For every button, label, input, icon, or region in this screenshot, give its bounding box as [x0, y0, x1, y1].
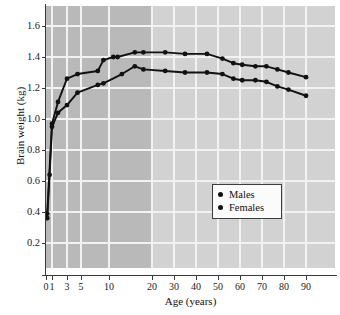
- data-point-marker: [240, 78, 245, 83]
- x-axis-line: [42, 275, 337, 276]
- data-point-marker: [111, 55, 116, 60]
- y-axis-tick-label: 0.4: [16, 207, 40, 217]
- data-point-marker: [56, 110, 61, 115]
- data-point-marker: [65, 76, 70, 81]
- x-axis-tick-label: 1: [50, 281, 55, 292]
- y-axis-tick-label: 1.6: [16, 21, 40, 31]
- chart-screenshot: 0.20.40.60.81.01.21.41.6 013510203040506…: [0, 0, 340, 315]
- legend: Males Females: [212, 184, 282, 219]
- data-point-marker: [253, 64, 258, 69]
- data-point-marker: [132, 50, 137, 55]
- data-point-marker: [253, 78, 258, 83]
- x-axis-tick: [218, 276, 219, 280]
- filled-circle-icon: [218, 192, 223, 197]
- y-axis-tick: [42, 88, 46, 89]
- data-point-marker: [101, 81, 106, 86]
- x-axis-tick-label: 90: [301, 281, 311, 292]
- legend-item-males: Males: [218, 188, 276, 201]
- legend-item-females: Females: [218, 201, 276, 214]
- x-axis-tick-label: 70: [257, 281, 267, 292]
- y-axis-tick: [42, 243, 46, 244]
- data-point-marker: [183, 70, 188, 75]
- data-point-marker: [95, 83, 100, 88]
- filled-circle-icon: [218, 205, 223, 210]
- data-point-marker: [163, 69, 168, 74]
- data-point-marker: [46, 216, 50, 221]
- x-axis-tick-label: 40: [191, 281, 201, 292]
- data-point-marker: [264, 64, 269, 69]
- y-axis-tick: [42, 212, 46, 213]
- data-point-marker: [220, 72, 225, 77]
- data-point-marker: [115, 55, 120, 60]
- data-point-marker: [205, 70, 210, 75]
- x-axis-tick: [109, 276, 110, 280]
- data-point-marker: [47, 172, 52, 177]
- data-point-marker: [141, 67, 146, 72]
- data-point-marker: [220, 56, 225, 61]
- data-point-marker: [231, 61, 236, 66]
- data-point-marker: [75, 90, 80, 95]
- y-axis-line: [45, 4, 46, 276]
- data-point-marker: [163, 50, 168, 55]
- data-point-marker: [240, 62, 245, 67]
- y-axis-tick: [42, 150, 46, 151]
- x-axis-tick-label: 60: [235, 281, 245, 292]
- data-point-marker: [132, 64, 137, 69]
- y-axis-tick: [42, 181, 46, 182]
- data-point-marker: [95, 69, 100, 74]
- y-axis-tick: [42, 119, 46, 120]
- data-point-marker: [304, 93, 309, 98]
- data-point-marker: [264, 79, 269, 84]
- data-point-marker: [101, 58, 106, 63]
- x-axis-tick-label: 20: [147, 281, 157, 292]
- legend-item-label: Females: [229, 202, 264, 214]
- x-axis-tick: [67, 276, 68, 280]
- y-axis-tick-label: 0.2: [16, 238, 40, 248]
- data-point-marker: [75, 72, 80, 77]
- x-axis-title: Age (years): [46, 295, 335, 307]
- x-axis-tick: [46, 276, 47, 280]
- series-layer: [46, 6, 335, 268]
- x-axis-tick-label: 5: [79, 281, 84, 292]
- data-point-marker: [141, 50, 146, 55]
- x-axis-tick-label: 0: [44, 281, 49, 292]
- data-point-marker: [65, 103, 70, 108]
- data-point-marker: [286, 70, 291, 75]
- x-axis-tick: [240, 276, 241, 280]
- data-point-marker: [183, 52, 188, 57]
- x-axis-tick-label: 80: [279, 281, 289, 292]
- plot-area: [46, 6, 335, 268]
- data-point-marker: [275, 67, 280, 72]
- x-axis-tick: [196, 276, 197, 280]
- x-axis-tick-label: 3: [65, 281, 70, 292]
- x-axis-tick: [81, 276, 82, 280]
- y-axis-tick: [42, 26, 46, 27]
- data-point-marker: [50, 124, 55, 129]
- data-point-marker: [56, 100, 61, 105]
- x-axis-tick: [284, 276, 285, 280]
- x-axis-tick: [262, 276, 263, 280]
- data-point-marker: [304, 75, 309, 80]
- y-axis-tick: [42, 57, 46, 58]
- x-axis-tick-label: 30: [169, 281, 179, 292]
- x-axis-tick: [174, 276, 175, 280]
- data-point-marker: [231, 76, 236, 81]
- x-axis-tick-label: 10: [104, 281, 114, 292]
- data-point-marker: [120, 72, 125, 77]
- y-axis-title: Brain weight (kg): [14, 51, 26, 201]
- x-axis-tick-label: 50: [213, 281, 223, 292]
- data-point-marker: [205, 52, 210, 57]
- data-point-marker: [286, 87, 291, 92]
- legend-item-label: Males: [229, 189, 255, 201]
- x-axis-tick: [306, 276, 307, 280]
- data-point-marker: [275, 84, 280, 89]
- x-axis-tick: [52, 276, 53, 280]
- x-axis-tick: [152, 276, 153, 280]
